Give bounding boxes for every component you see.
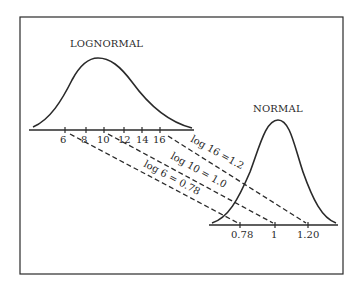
- normal-tick-0-78: 0.78: [231, 229, 253, 240]
- lognormal-title: LOGNORMAL: [70, 38, 143, 49]
- lognormal-distribution: LOGNORMAL 6 8 10 12 14 16: [29, 38, 194, 145]
- lognormal-normal-diagram: LOGNORMAL 6 8 10 12 14 16 NORMAL 0.78 1 …: [0, 0, 364, 287]
- normal-tick-1-20: 1.20: [297, 229, 319, 240]
- normal-curve: [212, 120, 336, 223]
- lognormal-tick-14: 14: [136, 134, 149, 145]
- log-mapping-lines: [70, 134, 306, 223]
- normal-distribution: NORMAL 0.78 1 1.20: [209, 103, 338, 240]
- lognormal-tick-16: 16: [153, 134, 166, 145]
- lognormal-tick-10: 10: [97, 134, 110, 145]
- lognormal-tick-6: 6: [60, 134, 66, 145]
- normal-title: NORMAL: [253, 103, 303, 114]
- lognormal-curve: [33, 58, 192, 128]
- normal-tick-1: 1: [271, 229, 277, 240]
- mapping-line-10: [108, 134, 273, 223]
